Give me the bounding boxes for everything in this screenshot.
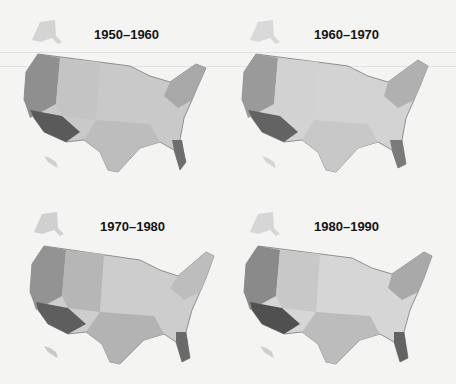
- region-mountain: [274, 58, 318, 120]
- map-panel-1970-1980: 1970–1980: [0, 192, 228, 384]
- region-mountain: [276, 250, 320, 312]
- region-south: [86, 312, 164, 364]
- map-panel-1980-1990: 1980–1990: [228, 192, 456, 384]
- region-mountain: [56, 58, 100, 120]
- map-panel-1950-1960: 1950–1960: [0, 0, 228, 192]
- florida: [176, 332, 190, 362]
- region-northeast: [388, 252, 432, 300]
- hawaii: [260, 346, 274, 358]
- map-title: 1970–1980: [100, 219, 165, 234]
- map-title: 1980–1990: [314, 219, 379, 234]
- map-panel-1960-1970: 1960–1970: [228, 0, 456, 192]
- florida: [390, 140, 406, 168]
- region-mountain: [62, 250, 104, 312]
- alaska: [250, 20, 280, 44]
- alaska: [34, 212, 64, 236]
- florida: [394, 332, 408, 362]
- region-northeast: [164, 64, 206, 108]
- hawaii: [44, 346, 58, 358]
- hawaii: [44, 156, 58, 168]
- map-title: 1960–1970: [314, 27, 379, 42]
- region-south: [84, 120, 160, 172]
- region-northeast: [384, 60, 428, 108]
- region-south: [302, 312, 380, 364]
- hawaii: [262, 156, 276, 168]
- region-south: [302, 120, 378, 172]
- map-title: 1950–1960: [94, 27, 159, 42]
- alaska: [250, 212, 280, 236]
- alaska: [32, 20, 62, 44]
- florida: [172, 140, 186, 170]
